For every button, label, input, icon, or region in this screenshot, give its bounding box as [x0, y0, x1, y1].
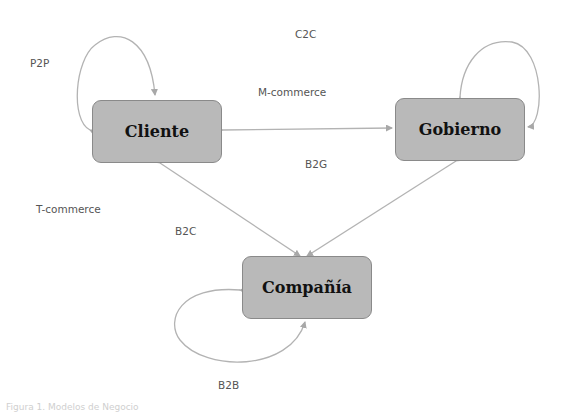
node-compania: Compañía [242, 256, 372, 319]
label-p2p: P2P [30, 57, 49, 69]
label-b2b: B2B [218, 379, 239, 391]
node-compania-label: Compañía [262, 278, 352, 297]
edge-cliente-compania [160, 163, 300, 256]
edge-cliente-gobierno [222, 128, 392, 130]
node-cliente: Cliente [92, 100, 222, 163]
node-gobierno-label: Gobierno [419, 120, 502, 139]
label-m-commerce: M-commerce [258, 86, 326, 98]
figure-caption: Figura 1. Modelos de Negocio [6, 402, 139, 412]
node-cliente-label: Cliente [125, 122, 189, 141]
label-c2c: C2C [295, 28, 316, 40]
label-b2g: B2G [305, 158, 327, 170]
label-b2c: B2C [175, 225, 196, 237]
edge-gobierno-compania [307, 161, 456, 256]
label-t-commerce: T-commerce [36, 203, 101, 215]
node-gobierno: Gobierno [395, 98, 525, 161]
